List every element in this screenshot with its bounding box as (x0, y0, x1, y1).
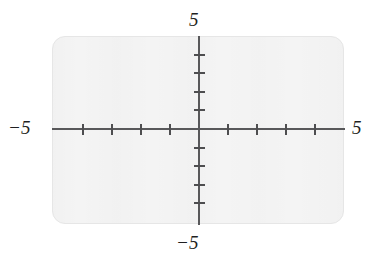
y-axis-max-label: 5 (189, 10, 199, 29)
x-axis-tick (82, 124, 84, 135)
y-axis-tick (194, 54, 205, 56)
y-axis-tick (194, 184, 205, 186)
x-axis-tick (111, 124, 113, 135)
y-axis-tick (194, 109, 205, 111)
x-axis-tick (227, 124, 229, 135)
y-axis-tick (194, 202, 205, 204)
x-axis-max-label: 5 (352, 118, 362, 137)
y-axis-line (198, 36, 200, 225)
y-axis-tick (194, 91, 205, 93)
x-axis-tick (256, 124, 258, 135)
x-axis-tick (314, 124, 316, 135)
y-axis-tick (194, 165, 205, 167)
y-axis-min-label: −5 (176, 233, 199, 252)
coordinate-plane-figure: 5 −5 −5 5 (0, 0, 381, 262)
x-axis-tick (285, 124, 287, 135)
x-axis-tick (169, 124, 171, 135)
x-axis-min-label: −5 (8, 118, 31, 137)
x-axis-tick (140, 124, 142, 135)
y-axis-tick (194, 147, 205, 149)
y-axis-tick (194, 72, 205, 74)
